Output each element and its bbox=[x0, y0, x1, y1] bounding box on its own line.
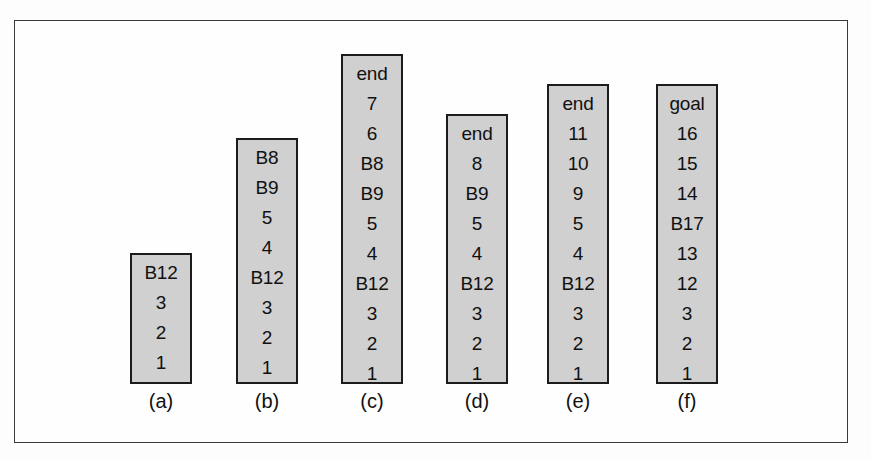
stack-cell: 3 bbox=[549, 299, 607, 329]
stack-column-c: end76B8B954B12321(c) bbox=[341, 54, 403, 414]
stack-column-b: B8B954B12321(b) bbox=[236, 138, 298, 414]
stack-cell: 15 bbox=[658, 149, 716, 179]
stack-cell: B12 bbox=[549, 269, 607, 299]
stack-cell: 3 bbox=[343, 299, 401, 329]
stack-cell: 9 bbox=[549, 179, 607, 209]
stack-label-b: (b) bbox=[236, 388, 298, 414]
stack-cell: 1 bbox=[658, 359, 716, 389]
stack-cell: 2 bbox=[132, 318, 190, 348]
stack-cell: 2 bbox=[238, 323, 296, 353]
stack-cell: 5 bbox=[343, 209, 401, 239]
stack-cell: 12 bbox=[658, 269, 716, 299]
stack-cell: B8 bbox=[238, 143, 296, 173]
stack-cell: 16 bbox=[658, 119, 716, 149]
stack-label-d: (d) bbox=[446, 388, 508, 414]
stack-cell: 5 bbox=[448, 209, 506, 239]
stack-cell: B12 bbox=[132, 258, 190, 288]
stack-label-c: (c) bbox=[341, 388, 403, 414]
stack-cell: 7 bbox=[343, 89, 401, 119]
stack-cell: goal bbox=[658, 89, 716, 119]
stack-cell: 5 bbox=[238, 203, 296, 233]
stack-bar-c: end76B8B954B12321 bbox=[341, 54, 403, 384]
stack-cell: 6 bbox=[343, 119, 401, 149]
stack-cell: 3 bbox=[238, 293, 296, 323]
stack-cell: end bbox=[343, 59, 401, 89]
stack-cell: 1 bbox=[549, 359, 607, 389]
stack-cell: 14 bbox=[658, 179, 716, 209]
stack-label-a: (a) bbox=[130, 388, 192, 414]
stack-cell: B12 bbox=[238, 263, 296, 293]
stack-bar-e: end1110954B12321 bbox=[547, 84, 609, 384]
stack-cell: end bbox=[448, 119, 506, 149]
stack-bar-f: goal161514B171312321 bbox=[656, 84, 718, 384]
stack-cell: 5 bbox=[549, 209, 607, 239]
stack-cell: 1 bbox=[343, 359, 401, 389]
stack-cell: 1 bbox=[448, 359, 506, 389]
stack-cell: 3 bbox=[448, 299, 506, 329]
stack-cell: 4 bbox=[448, 239, 506, 269]
stack-cell: B9 bbox=[448, 179, 506, 209]
stack-cell: B9 bbox=[343, 179, 401, 209]
stack-cell: 11 bbox=[549, 119, 607, 149]
stack-column-d: end8B954B12321(d) bbox=[446, 114, 508, 414]
stack-bar-a: B12321 bbox=[130, 253, 192, 384]
stack-cell: 13 bbox=[658, 239, 716, 269]
stack-cell: 2 bbox=[343, 329, 401, 359]
stack-cell: B8 bbox=[343, 149, 401, 179]
stack-cell: 2 bbox=[658, 329, 716, 359]
stack-cell: 1 bbox=[238, 353, 296, 383]
stack-cell: 4 bbox=[549, 239, 607, 269]
stack-bar-d: end8B954B12321 bbox=[446, 114, 508, 384]
stack-cell: 4 bbox=[343, 239, 401, 269]
stack-cell: B12 bbox=[343, 269, 401, 299]
stack-cell: 2 bbox=[448, 329, 506, 359]
stack-cell: 8 bbox=[448, 149, 506, 179]
stack-column-a: B12321(a) bbox=[130, 253, 192, 414]
stack-cell: B17 bbox=[658, 209, 716, 239]
stack-column-e: end1110954B12321(e) bbox=[547, 84, 609, 414]
stack-cell: B9 bbox=[238, 173, 296, 203]
stack-cell: 3 bbox=[132, 288, 190, 318]
stack-label-f: (f) bbox=[656, 388, 718, 414]
figure-frame: B12321(a)B8B954B12321(b)end76B8B954B1232… bbox=[14, 20, 848, 443]
stack-cell: end bbox=[549, 89, 607, 119]
figure-page: B12321(a)B8B954B12321(b)end76B8B954B1232… bbox=[0, 0, 871, 459]
stack-cell: 3 bbox=[658, 299, 716, 329]
stack-bar-b: B8B954B12321 bbox=[236, 138, 298, 384]
stack-column-f: goal161514B171312321(f) bbox=[656, 84, 718, 414]
stack-cell: 1 bbox=[132, 348, 190, 378]
stack-label-e: (e) bbox=[547, 388, 609, 414]
stack-cell: 4 bbox=[238, 233, 296, 263]
stack-cell: 10 bbox=[549, 149, 607, 179]
stack-cell: B12 bbox=[448, 269, 506, 299]
stack-cell: 2 bbox=[549, 329, 607, 359]
